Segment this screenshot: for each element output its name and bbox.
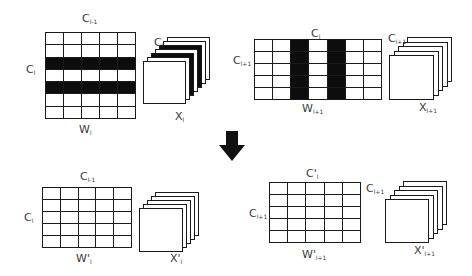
matrix-cell [363, 88, 381, 100]
matrix-cell [345, 40, 363, 52]
feature-map-layer [385, 199, 429, 243]
label-c-l-minus-1: Cl-1 [80, 171, 95, 183]
matrix-cell [345, 88, 363, 100]
label-stack-c-l: Cl [154, 37, 163, 49]
matrix-cell [270, 231, 288, 243]
matrix-cell [64, 33, 82, 45]
matrix-cell [64, 94, 82, 106]
matrix-cell [309, 76, 327, 88]
matrix-cell [309, 64, 327, 76]
matrix-cell [288, 231, 306, 243]
matrix-cell [46, 33, 64, 45]
matrix-cell [324, 231, 342, 243]
matrix-cell [327, 52, 345, 64]
matrix-cell [46, 57, 64, 69]
matrix-cell [288, 207, 306, 219]
matrix-cell [342, 219, 360, 231]
matrix-cell [324, 207, 342, 219]
matrix-cell [363, 40, 381, 52]
matrix-cell [118, 106, 136, 118]
matrix-cell [78, 200, 96, 212]
label-stack-c-l-plus-1: Cl+1 [366, 183, 384, 195]
matrix-cell [82, 33, 100, 45]
matrix-cell [114, 212, 132, 224]
label-w-prime-l-plus-1: W'l+1 [302, 249, 326, 261]
matrix-cell [78, 188, 96, 200]
matrix-cell [118, 69, 136, 81]
matrix-cell [291, 40, 309, 52]
matrix-cell [118, 45, 136, 57]
matrix-cell [118, 33, 136, 45]
matrix-cell [342, 183, 360, 195]
matrix-cell [100, 82, 118, 94]
feature-map-layer [143, 61, 186, 104]
label-x-prime-l: X'l [170, 253, 182, 265]
matrix-cell [46, 82, 64, 94]
matrix-cell [43, 188, 61, 200]
matrix-cell [43, 200, 61, 212]
matrix-cell [288, 183, 306, 195]
feature-map-layer [389, 55, 434, 100]
matrix-cell [82, 69, 100, 81]
matrix-cell [96, 188, 114, 200]
matrix-cell [327, 88, 345, 100]
matrix-cell [96, 200, 114, 212]
weight-matrix-wl-plus-1 [254, 39, 382, 100]
pruned-weight-matrix-wl-plus-1 [269, 182, 361, 243]
down-arrow-icon [219, 131, 245, 161]
label-w-l-plus-1: Wl+1 [302, 103, 323, 115]
matrix-cell [345, 76, 363, 88]
matrix-cell [270, 207, 288, 219]
matrix-cell [255, 64, 273, 76]
feature-map-layer [139, 208, 183, 252]
matrix-cell [306, 195, 324, 207]
matrix-cell [96, 224, 114, 236]
label-w-l: Wl [79, 124, 92, 136]
matrix-cell [291, 52, 309, 64]
label-c-l-minus-1: Cl-1 [82, 13, 97, 25]
matrix-cell [270, 219, 288, 231]
matrix-cell [43, 224, 61, 236]
label-c-l: Cl [24, 212, 33, 224]
matrix-cell [306, 231, 324, 243]
matrix-cell [273, 88, 291, 100]
matrix-cell [114, 188, 132, 200]
matrix-cell [64, 106, 82, 118]
matrix-cell [96, 236, 114, 248]
matrix-cell [273, 76, 291, 88]
matrix-cell [100, 94, 118, 106]
matrix-cell [78, 236, 96, 248]
matrix-cell [100, 57, 118, 69]
matrix-cell [46, 69, 64, 81]
label-c-l-plus-1: Cl+1 [233, 55, 251, 67]
matrix-cell [291, 76, 309, 88]
matrix-cell [309, 40, 327, 52]
matrix-cell [64, 69, 82, 81]
matrix-cell [342, 195, 360, 207]
matrix-cell [43, 236, 61, 248]
matrix-cell [100, 33, 118, 45]
matrix-cell [60, 224, 78, 236]
matrix-cell [288, 219, 306, 231]
label-stack-c-l-plus-1: Cl+1 [388, 33, 406, 45]
matrix-cell [60, 200, 78, 212]
matrix-cell [100, 45, 118, 57]
matrix-cell [327, 40, 345, 52]
matrix-cell [255, 40, 273, 52]
matrix-cell [46, 45, 64, 57]
matrix-cell [345, 52, 363, 64]
matrix-cell [255, 88, 273, 100]
matrix-cell [43, 212, 61, 224]
matrix-cell [327, 64, 345, 76]
label-c-prime-l: C'l [306, 168, 318, 180]
matrix-cell [342, 231, 360, 243]
matrix-cell [60, 236, 78, 248]
matrix-cell [345, 64, 363, 76]
matrix-cell [324, 195, 342, 207]
matrix-cell [255, 76, 273, 88]
label-c-l: Cl [26, 64, 35, 76]
label-w-prime-l: W'l [76, 253, 92, 265]
matrix-cell [82, 94, 100, 106]
matrix-cell [60, 212, 78, 224]
matrix-cell [273, 40, 291, 52]
